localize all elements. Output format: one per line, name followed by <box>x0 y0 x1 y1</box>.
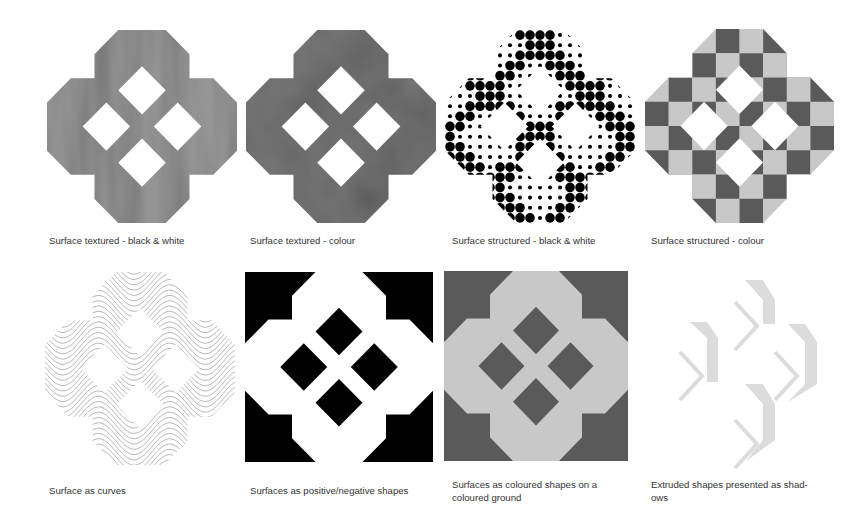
dot <box>518 94 522 98</box>
dot <box>445 40 455 50</box>
panel-structured-colour <box>645 29 834 223</box>
dot <box>465 152 475 162</box>
knot-textured-bw <box>47 30 237 223</box>
dot <box>605 101 615 111</box>
dot <box>555 101 565 111</box>
dot <box>528 94 532 98</box>
dot <box>598 185 602 189</box>
dot <box>538 64 542 68</box>
dot <box>558 94 562 98</box>
curve-set <box>45 211 235 517</box>
checker-tile <box>740 199 764 223</box>
dot <box>595 172 605 182</box>
dot <box>608 94 612 98</box>
dot <box>458 175 462 179</box>
dot <box>565 61 575 71</box>
dot <box>538 84 542 88</box>
dot <box>578 53 582 57</box>
dot <box>495 71 505 81</box>
dot <box>605 203 615 213</box>
dot <box>448 104 452 108</box>
dot <box>478 64 482 68</box>
dot <box>448 196 452 200</box>
checker-tile <box>740 102 764 126</box>
checker-tile <box>645 53 669 77</box>
checker-tile <box>645 102 669 126</box>
dot <box>588 43 592 47</box>
dot <box>525 122 535 132</box>
checker-tile <box>787 78 811 102</box>
dot <box>475 172 485 182</box>
caption-line-1: Extruded shapes presented as shad- <box>651 478 851 491</box>
knot-coloured-ground <box>444 271 628 461</box>
dot <box>618 206 622 210</box>
dot <box>568 124 572 128</box>
dot <box>525 40 535 50</box>
curve-line <box>45 343 235 369</box>
dot <box>605 122 615 132</box>
dot <box>498 33 502 37</box>
dot <box>598 53 602 57</box>
dot <box>488 74 492 78</box>
dot <box>455 111 465 121</box>
checker-tile <box>669 150 693 174</box>
dot <box>515 213 525 223</box>
dot <box>495 193 505 203</box>
curve-line <box>45 295 235 321</box>
curve-line <box>45 269 235 295</box>
dot <box>565 101 575 111</box>
checker-tile <box>716 78 740 102</box>
dot <box>598 135 602 139</box>
dot <box>578 216 582 220</box>
dot <box>515 30 525 40</box>
curve-line <box>45 338 235 364</box>
dot <box>588 145 592 149</box>
dot <box>535 30 545 40</box>
curve-line <box>45 433 235 459</box>
dot <box>445 142 455 152</box>
knot-structured-colour <box>645 29 834 223</box>
dot <box>495 162 505 172</box>
curve-line <box>45 439 235 465</box>
curve-line <box>45 407 235 433</box>
dot <box>568 145 572 149</box>
dot <box>505 193 515 203</box>
dot <box>575 193 585 203</box>
dot <box>578 114 582 118</box>
dot <box>565 193 575 203</box>
checker-tile <box>692 150 716 174</box>
dot <box>475 101 485 111</box>
dot-grid <box>445 30 635 223</box>
dot <box>595 203 605 213</box>
dot <box>555 51 565 61</box>
dot <box>488 165 492 169</box>
checker-tile <box>669 29 693 53</box>
panel-textured-colour <box>246 30 436 223</box>
curve-line <box>45 370 235 396</box>
dot <box>625 51 635 61</box>
dot <box>548 94 552 98</box>
dot <box>555 172 565 182</box>
dot <box>568 43 572 47</box>
dot <box>575 71 585 81</box>
checker-grid <box>645 29 834 223</box>
dot <box>578 43 582 47</box>
dot <box>628 185 632 189</box>
curve-line <box>45 311 235 337</box>
dot <box>585 183 595 193</box>
curve-line <box>45 364 235 390</box>
checker-tile <box>740 150 764 174</box>
dot <box>508 155 512 159</box>
curve-line <box>45 354 235 380</box>
dot <box>568 33 572 37</box>
checker-tile <box>716 53 740 77</box>
dot <box>538 114 542 118</box>
checker-tile <box>763 199 787 223</box>
dot <box>495 203 505 213</box>
dot <box>455 203 465 213</box>
dot <box>588 64 592 68</box>
dot <box>598 124 602 128</box>
checker-tile <box>740 53 764 77</box>
dot <box>485 172 495 182</box>
caption-textured-colour: Surface textured - colour <box>250 234 355 247</box>
